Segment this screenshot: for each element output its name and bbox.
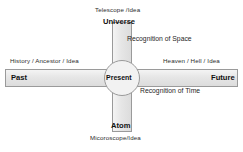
past-axis-end-label: Past bbox=[11, 74, 27, 82]
universe-axis-end-label: Universe bbox=[103, 18, 135, 26]
recognition-space-time-diagram: Telescope /Idea Universe Recognition of … bbox=[0, 0, 243, 152]
future-axis-end-label: Future bbox=[211, 74, 235, 82]
history-ancestor-idea-annotation: History / Ancestor / Idea bbox=[10, 58, 79, 64]
recognition-of-space-caption: Recognition of Space bbox=[127, 36, 192, 43]
recognition-of-time-caption: Recognition of Time bbox=[140, 88, 200, 95]
heaven-hell-idea-annotation: Heaven / Hell / Idea bbox=[163, 58, 220, 64]
atom-axis-end-label: Atom bbox=[111, 122, 130, 130]
present-node-label: Present bbox=[106, 74, 132, 81]
telescope-idea-annotation: Telescope /Idea bbox=[95, 7, 140, 13]
microscope-idea-annotation: Micoroscope/Idea bbox=[90, 135, 141, 141]
